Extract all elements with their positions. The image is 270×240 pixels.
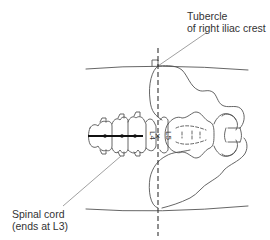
vertebra-label-l5: L5 [164,131,173,140]
sacroiliac-joint-inner [222,114,236,156]
cord-segment-dot [120,134,124,138]
tubercle-label: Tubercle of right iliac crest [187,10,266,34]
sacroiliac-joint-right [214,114,242,157]
iliac-bone-lower-outline [149,138,247,208]
diagram-svg: L4 L5 × [0,0,270,240]
vertebra-l3 [128,117,146,153]
tubercle-leader-line [158,33,206,66]
right-angle-marker [152,60,158,66]
spinal-cord-label-line2: (ends at L3) [12,220,68,232]
diagram-canvas: L4 L5 × Tubercle of right iliac crest Sp… [0,0,270,240]
cord-segment-dot [133,134,137,138]
spinal-cord-label-line1: Spinal cord [12,208,68,220]
tubercle-label-line2: of right iliac crest [187,22,266,34]
tubercle-label-line1: Tubercle [187,10,266,22]
spinal-cord-leader-line [63,156,121,206]
vertebral-processes [100,112,140,156]
insertion-marker: × [155,131,160,141]
sacral-foramina-dashed [176,126,206,144]
spinal-cord-label: Spinal cord (ends at L3) [12,208,68,232]
iliac-bone-upper-outline [149,66,244,128]
upper-body-contour [86,66,248,70]
spinal-cord [88,134,143,138]
cord-segment-dot [103,134,107,138]
